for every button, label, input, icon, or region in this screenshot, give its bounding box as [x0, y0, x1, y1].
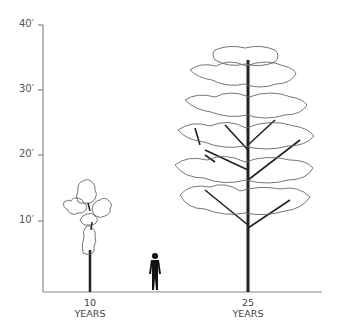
growth-diagram: [0, 0, 344, 331]
human-figure: [149, 253, 161, 290]
x-label-10-years: 10 YEARS: [60, 297, 120, 319]
tree-25-years: [175, 46, 314, 292]
x-label-25-years-number: 25: [218, 297, 278, 308]
y-tick-label-20: 20′: [6, 148, 34, 159]
y-tick-label-40: 40′: [6, 18, 34, 29]
x-label-25-years: 25 YEARS: [218, 297, 278, 319]
x-label-10-years-unit: YEARS: [60, 308, 120, 319]
x-label-10-years-number: 10: [60, 297, 120, 308]
tree-10-years: [64, 180, 112, 292]
axes: [38, 25, 322, 292]
x-label-25-years-unit: YEARS: [218, 308, 278, 319]
y-tick-label-30: 30′: [6, 83, 34, 94]
y-tick-label-10: 10′: [6, 214, 34, 225]
